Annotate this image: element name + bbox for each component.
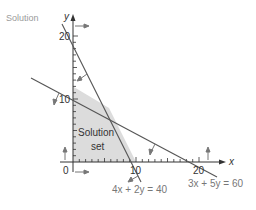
y-axis-arrow-icon xyxy=(71,14,76,21)
region-label-line2: set xyxy=(91,141,105,152)
solution-region xyxy=(73,86,136,162)
y-tick-label-20: 20 xyxy=(59,31,71,42)
solution-set-diagram: y x 0 10 20 10 20 Solution set 4x + 2y =… xyxy=(0,0,256,210)
x-axis-arrow-icon xyxy=(219,160,226,165)
equation-4x-2y-40: 4x + 2y = 40 xyxy=(112,184,167,195)
equation-3x-5y-60: 3x + 5y = 60 xyxy=(188,178,243,189)
origin-label: 0 xyxy=(63,165,69,176)
region-label-line1: Solution xyxy=(78,127,114,138)
x-tick-label-20: 20 xyxy=(193,165,205,176)
x-tick-label-10: 10 xyxy=(130,165,142,176)
y-tick-label-10: 10 xyxy=(59,94,71,105)
x-axis-label: x xyxy=(228,156,235,167)
y-axis-label: y xyxy=(63,11,70,22)
